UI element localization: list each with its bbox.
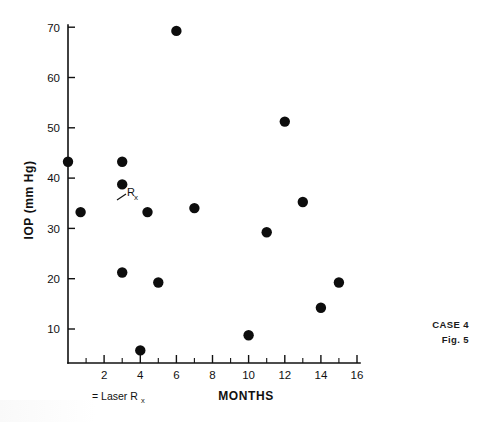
- data-point[interactable]: [117, 267, 127, 277]
- axes-group: [68, 25, 360, 363]
- x-axis-tick-labels: 2 4 6 8 10 12 14 16: [101, 369, 364, 381]
- scatter-plot: 70 60 50 40 30 20 10: [0, 0, 479, 422]
- rx-leader-line: [117, 194, 126, 200]
- y-tick-label-40: 40: [47, 172, 60, 184]
- data-point[interactable]: [171, 26, 181, 36]
- data-point[interactable]: [189, 203, 199, 213]
- data-point[interactable]: [117, 157, 127, 167]
- x-tick-label-14: 14: [315, 369, 328, 381]
- data-point[interactable]: [75, 207, 85, 217]
- data-point[interactable]: [117, 179, 127, 189]
- x-tick-label-10: 10: [242, 369, 255, 381]
- data-point[interactable]: [63, 157, 73, 167]
- legend-subscript: x: [141, 396, 145, 405]
- y-tick-label-70: 70: [47, 22, 60, 34]
- y-tick-label-30: 30: [47, 223, 60, 235]
- x-tick-label-12: 12: [278, 369, 291, 381]
- x-tick-label-16: 16: [351, 369, 364, 381]
- data-point[interactable]: [142, 207, 152, 217]
- y-tick-label-60: 60: [47, 72, 60, 84]
- legend-laser-rx: = Laser R x: [92, 390, 145, 405]
- data-points-group: [63, 26, 344, 356]
- case-label: CASE 4: [393, 318, 469, 333]
- y-tick-label-10: 10: [47, 323, 60, 335]
- y-tick-label-20: 20: [47, 273, 60, 285]
- figure-caption: CASE 4 Fig. 5: [393, 318, 469, 347]
- data-point[interactable]: [316, 303, 326, 313]
- x-tick-label-2: 2: [101, 369, 107, 381]
- data-point[interactable]: [298, 197, 308, 207]
- rx-annotation-subscript: x: [134, 193, 138, 202]
- figure-label: Fig. 5: [393, 333, 469, 348]
- data-point[interactable]: [262, 227, 272, 237]
- data-point[interactable]: [243, 330, 253, 340]
- x-tick-label-8: 8: [209, 369, 215, 381]
- x-tick-label-6: 6: [173, 369, 179, 381]
- figure-container: 70 60 50 40 30 20 10: [0, 0, 479, 422]
- data-point[interactable]: [280, 116, 290, 126]
- data-point[interactable]: [153, 277, 163, 287]
- legend-label: = Laser R: [92, 390, 138, 402]
- y-tick-label-50: 50: [47, 122, 60, 134]
- data-point[interactable]: [334, 277, 344, 287]
- y-axis-ticks: [68, 27, 75, 329]
- data-point[interactable]: [135, 345, 145, 355]
- y-axis-label: IOP (mm Hg): [22, 160, 36, 239]
- y-axis-tick-labels: 70 60 50 40 30 20 10: [47, 22, 60, 336]
- x-tick-label-4: 4: [137, 369, 144, 381]
- x-axis-label: MONTHS: [218, 389, 274, 403]
